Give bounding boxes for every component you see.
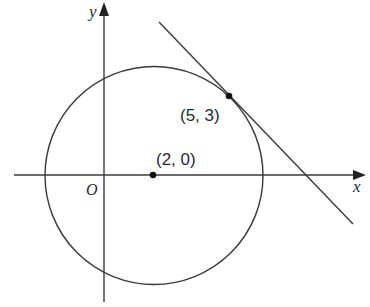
tangent-point-label: (5, 3) <box>180 106 220 125</box>
y-axis-arrow-icon <box>99 2 109 16</box>
coordinate-diagram: y x O (2, 0) (5, 3) <box>0 0 370 307</box>
tangent-point <box>226 93 233 100</box>
origin-label: O <box>86 181 98 198</box>
y-axis-label: y <box>87 2 97 21</box>
center-label: (2, 0) <box>156 150 196 169</box>
x-axis-label: x <box>352 177 361 196</box>
center-point <box>150 172 157 179</box>
